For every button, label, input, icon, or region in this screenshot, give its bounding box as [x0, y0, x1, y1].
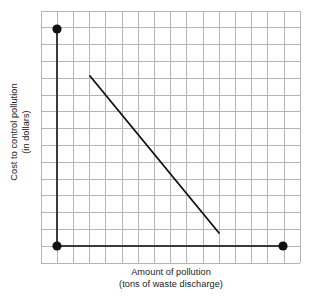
grid-lines-vertical [41, 11, 300, 263]
y-axis-label: Cost to control pollution (in dollars) [8, 83, 32, 180]
data-point-markers [52, 24, 287, 250]
x-axis-end-marker [278, 241, 287, 250]
y-axis-label-sub: (in dollars) [20, 83, 32, 180]
x-axis-label-main: Amount of pollution [131, 267, 211, 277]
y-axis-top-marker [52, 24, 61, 33]
origin-marker [52, 241, 61, 250]
y-axis-label-wrap: Cost to control pollution (in dollars) [0, 0, 40, 263]
chart-container: Cost to control pollution (in dollars) A… [0, 0, 321, 301]
y-axis-label-main: Cost to control pollution [9, 83, 19, 180]
chart-plot-svg [0, 0, 321, 301]
x-axis-label-sub: (tons of waste discharge) [41, 278, 301, 290]
x-axis-label: Amount of pollution (tons of waste disch… [41, 266, 301, 290]
